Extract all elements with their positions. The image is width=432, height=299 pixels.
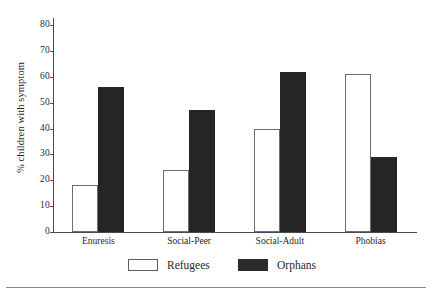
open-square-swatch — [128, 259, 158, 271]
legend-label: Refugees — [167, 259, 210, 271]
y-tick-label: 50 — [4, 98, 50, 108]
y-axis-ticks: 01020304050607080 — [0, 0, 50, 299]
legend-label: Orphans — [277, 259, 316, 271]
bar-group — [53, 25, 416, 232]
y-tick-label: 30 — [4, 149, 50, 159]
legend-item-refugees: Refugees — [128, 259, 210, 271]
y-tick-label: 70 — [4, 46, 50, 56]
y-tick-label: 60 — [4, 72, 50, 82]
legend-item-orphans: Orphans — [238, 259, 316, 271]
y-tick-label: 20 — [4, 175, 50, 185]
y-tick-label: 40 — [4, 124, 50, 134]
bar-orphans-phobias — [371, 157, 397, 232]
y-tick-label: 80 — [4, 20, 50, 30]
plot-area — [53, 25, 416, 232]
x-axis-line — [53, 232, 417, 233]
x-tick-label: Phobias — [311, 236, 431, 247]
footer-divider — [6, 287, 426, 288]
bar-refugees-phobias — [345, 74, 371, 232]
filled-square-swatch — [238, 259, 268, 271]
bar-chart-figure: % children with symptom 0102030405060708… — [0, 0, 432, 299]
y-tick-label: 10 — [4, 201, 50, 211]
chart-legend: RefugeesOrphans — [0, 259, 432, 279]
